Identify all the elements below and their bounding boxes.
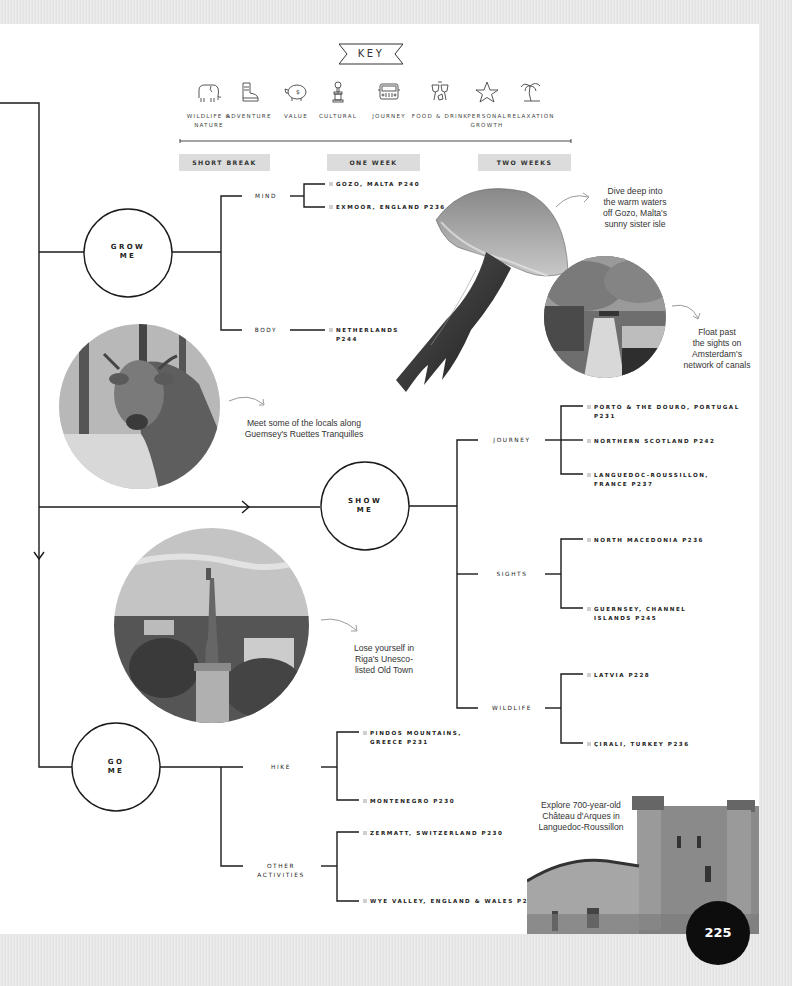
category-sights[interactable]: SIGHTS bbox=[483, 570, 541, 579]
svg-text:$: $ bbox=[296, 88, 300, 95]
destination-north-macedonia[interactable]: NORTH MACEDONIA P236 bbox=[594, 536, 704, 545]
category-hike[interactable]: HIKE bbox=[250, 763, 312, 772]
bullet-icon bbox=[363, 899, 367, 903]
bullet-icon bbox=[329, 328, 333, 332]
bullet-icon bbox=[587, 405, 591, 409]
jeep-icon bbox=[376, 80, 402, 104]
bullet-icon bbox=[363, 799, 367, 803]
wine-glasses-icon bbox=[427, 80, 453, 104]
palm-tree-icon bbox=[518, 80, 544, 104]
duration-short-break: SHORT BREAK bbox=[179, 154, 270, 171]
destination-montenegro[interactable]: MONTENEGRO P230 bbox=[370, 797, 455, 806]
destination-cirali[interactable]: ÇIRALI, TURKEY P236 bbox=[594, 740, 690, 749]
caption-riga: Lose yourself inRiga's Unesco-listed Old… bbox=[346, 643, 422, 676]
category-body[interactable]: BODY bbox=[245, 326, 287, 335]
bullet-icon bbox=[587, 607, 591, 611]
bullet-icon bbox=[587, 742, 591, 746]
duration-two-weeks: TWO WEEKS bbox=[478, 154, 571, 171]
caption-amsterdam: Float pastthe sights on Amsterdam'snetwo… bbox=[674, 327, 760, 371]
caption-chateau: Explore 700-year-oldChâteau d'Arques inL… bbox=[528, 800, 634, 833]
bullet-icon bbox=[587, 673, 591, 677]
bullet-icon bbox=[587, 538, 591, 542]
key-banner: KEY bbox=[339, 43, 403, 65]
destination-pindos[interactable]: PINDOS MOUNTAINS, GREECE P231 bbox=[370, 729, 462, 747]
destination-northern-scotland[interactable]: NORTHERN SCOTLAND P242 bbox=[594, 437, 715, 446]
page-number-badge: 225 bbox=[686, 901, 750, 965]
bullet-icon bbox=[363, 731, 367, 735]
category-mind[interactable]: MIND bbox=[245, 192, 287, 201]
amsterdam-canal-image bbox=[544, 256, 666, 378]
caption-guernsey: Meet some of the locals alongGuemsey's R… bbox=[236, 418, 372, 440]
riga-photo bbox=[114, 528, 309, 723]
caption-gozo: Dive deep intothe warm waters off Gozo, … bbox=[594, 186, 676, 230]
amsterdam-canal-photo bbox=[544, 256, 666, 378]
key-title: KEY bbox=[339, 43, 403, 65]
key-item-relaxation: RELAXATION bbox=[496, 80, 566, 121]
destination-wye-valley[interactable]: WYE VALLEY, ENGLAND & WALES P233 bbox=[370, 897, 539, 906]
hub-go-me[interactable]: GO ME bbox=[82, 758, 150, 776]
bullet-icon bbox=[329, 182, 333, 186]
cow-image bbox=[59, 324, 220, 489]
destination-latvia[interactable]: LATVIA P228 bbox=[594, 671, 650, 680]
bullet-icon bbox=[587, 439, 591, 443]
duration-one-week: ONE WEEK bbox=[327, 154, 420, 171]
category-wildlife[interactable]: WILDLIFE bbox=[483, 704, 541, 713]
boot-icon bbox=[236, 80, 262, 104]
category-other-activities[interactable]: OTHER ACTIVITIES bbox=[250, 862, 312, 879]
cow-photo bbox=[59, 324, 220, 489]
destination-zermatt[interactable]: ZERMATT, SWITZERLAND P230 bbox=[370, 829, 503, 838]
hub-show-me[interactable]: SHOW ME bbox=[331, 497, 399, 515]
destination-porto[interactable]: PORTO & THE DOURO, PORTUGAL P231 bbox=[594, 403, 740, 421]
bullet-icon bbox=[587, 473, 591, 477]
destination-guernsey[interactable]: GUERNSEY, CHANNEL ISLANDS P245 bbox=[594, 605, 686, 623]
destination-languedoc[interactable]: LANGUEDOC-ROUSSILLON, FRANCE P237 bbox=[594, 471, 709, 489]
category-journey[interactable]: JOURNEY bbox=[483, 436, 541, 445]
jellyfish-illustration bbox=[376, 180, 570, 395]
bullet-icon bbox=[329, 205, 333, 209]
hub-grow-me[interactable]: GROW ME bbox=[94, 243, 162, 261]
bullet-icon bbox=[363, 831, 367, 835]
statue-icon bbox=[325, 80, 351, 104]
riga-freedom-monument-image bbox=[114, 528, 309, 723]
